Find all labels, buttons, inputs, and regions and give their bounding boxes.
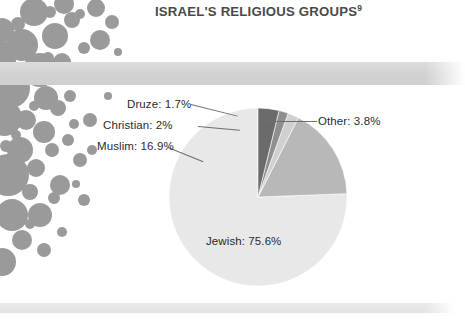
decorative-bubble	[90, 30, 110, 50]
decorative-bubble	[0, 248, 16, 276]
decorative-bubble	[114, 48, 122, 56]
decorative-bubble	[78, 194, 90, 206]
decorative-bubble	[69, 119, 79, 129]
page-title-text: ISRAEL'S RELIGIOUS GROUPS	[155, 4, 357, 19]
leader-line-other	[262, 121, 317, 122]
decorative-bubble	[22, 184, 38, 200]
decorative-bubble	[11, 130, 21, 140]
decorative-bubble	[50, 175, 70, 195]
pie-label-muslim: Muslim: 16.9%	[97, 140, 174, 152]
pie-label-christian: Christian: 2%	[103, 119, 173, 131]
pie-slice-group	[169, 108, 347, 286]
decorative-bubble	[37, 243, 51, 257]
decorative-bubble	[29, 101, 39, 111]
decorative-bubble	[42, 23, 68, 49]
pie-label-druze: Druze: 1.7%	[127, 98, 191, 110]
chart-page: ISRAEL'S RELIGIOUS GROUPS9 Druze: 1.7% C…	[0, 0, 465, 320]
decorative-bubble	[7, 137, 33, 163]
decorative-bubble	[57, 227, 67, 237]
decorative-bubble	[45, 143, 59, 157]
page-title: ISRAEL'S RELIGIOUS GROUPS9	[0, 0, 465, 23]
title-band-fade	[425, 62, 465, 85]
pie-label-jewish: Jewish: 75.6%	[206, 235, 281, 247]
decorative-bubble	[33, 121, 55, 143]
decorative-bubble	[0, 154, 29, 196]
decorative-bubble	[0, 100, 22, 136]
decorative-bubble	[50, 100, 66, 116]
decorative-bubble	[25, 219, 35, 229]
decorative-bubble	[28, 203, 52, 227]
decorative-bubbles	[0, 0, 150, 320]
pie-chart-svg	[168, 107, 348, 287]
decorative-bubble	[72, 180, 80, 188]
decorative-bubble	[0, 199, 28, 231]
decorative-bubble	[0, 140, 12, 152]
decorative-bubble	[16, 110, 36, 130]
decorative-bubble	[64, 90, 76, 102]
title-band	[0, 62, 465, 85]
footnote-marker: 9	[357, 3, 362, 13]
decorative-bubble	[27, 159, 45, 177]
decorative-bubble	[78, 42, 90, 54]
pie-chart	[168, 107, 348, 287]
pie-label-other: Other: 3.8%	[318, 115, 380, 127]
decorative-bubble	[104, 92, 112, 100]
decorative-bubble	[73, 153, 87, 167]
decorative-bubble	[0, 90, 12, 102]
decorative-bubble	[12, 230, 32, 250]
decorative-bubble	[62, 134, 74, 146]
footer-bar	[0, 303, 455, 313]
decorative-bubble	[87, 145, 97, 155]
decorative-bubble	[6, 29, 38, 61]
footer-bar-fade	[425, 303, 455, 313]
decorative-bubble	[48, 192, 60, 204]
decorative-bubble	[83, 113, 97, 127]
decorative-bubble	[34, 86, 58, 110]
